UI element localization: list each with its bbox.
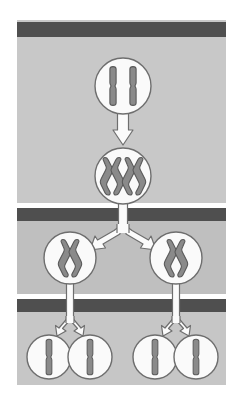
chromosome-rod bbox=[46, 339, 52, 375]
chromosome-rod bbox=[152, 339, 158, 375]
chromosome-rod bbox=[130, 67, 136, 106]
phase-divider-3-gap bbox=[17, 294, 226, 299]
chromosome-rod bbox=[87, 339, 93, 375]
stage-4-cell-3 bbox=[133, 335, 177, 379]
phase-divider-1 bbox=[17, 22, 226, 37]
chromosome-rod bbox=[110, 67, 116, 106]
phase-divider-3 bbox=[17, 299, 226, 312]
stage-4-cell-2 bbox=[68, 335, 112, 379]
stage-1-cell-1 bbox=[95, 58, 151, 114]
stage-3-cell-left bbox=[44, 232, 96, 284]
stage-2-cell-1 bbox=[95, 148, 151, 204]
cell-membrane bbox=[44, 232, 96, 284]
cell-membrane bbox=[95, 58, 151, 114]
cell-membrane bbox=[150, 232, 202, 284]
stage-4-cell-4 bbox=[174, 335, 218, 379]
stage-3-cell-right bbox=[150, 232, 202, 284]
stage-4-cell-1 bbox=[27, 335, 71, 379]
chromosome-rod bbox=[193, 339, 199, 375]
cell-division-diagram bbox=[0, 0, 236, 403]
diagram-canvas bbox=[0, 0, 236, 403]
